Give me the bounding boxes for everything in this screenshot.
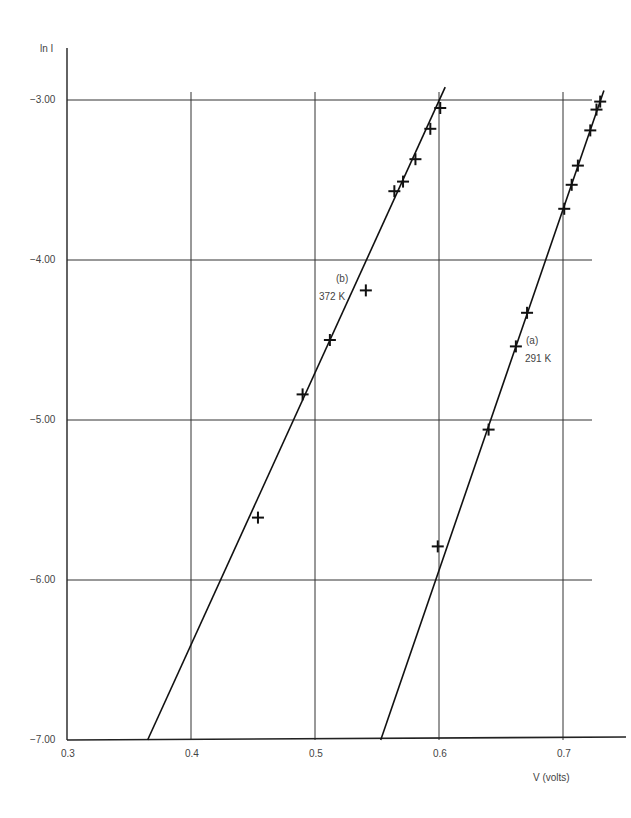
x-tick-label: 0.7	[557, 748, 571, 759]
plus-marker-icon	[510, 340, 522, 352]
x-axis-label-text: V (volts)	[533, 772, 570, 783]
plus-marker-icon	[324, 334, 336, 346]
y-tick-label: −3.00	[30, 94, 55, 105]
plus-marker-icon	[434, 102, 446, 114]
series-a-label: (a)	[526, 335, 538, 346]
plus-marker-icon	[252, 512, 264, 524]
y-tick-label: −5.00	[30, 414, 55, 425]
plus-marker-icon	[483, 424, 495, 436]
plus-marker-icon	[388, 185, 400, 197]
plus-marker-icon	[424, 123, 436, 135]
series-b-label: (b)	[336, 273, 348, 284]
y-tick-label: −4.00	[30, 254, 55, 265]
grid-lines	[67, 92, 592, 740]
x-axis-line	[67, 737, 626, 740]
x-tick-label: 0.6	[433, 748, 447, 759]
y-tick-label: −6.00	[30, 574, 55, 585]
x-tick-label: 0.5	[309, 748, 323, 759]
data-markers	[252, 96, 606, 553]
axes	[67, 48, 626, 740]
series-b-temperature: 372 K	[319, 291, 345, 302]
x-axis-label: V (volts)	[533, 772, 570, 783]
plus-marker-icon	[572, 160, 584, 172]
series-a-temperature: 291 K	[525, 353, 551, 364]
plus-marker-icon	[584, 124, 596, 136]
plus-marker-icon	[558, 203, 570, 215]
fit-lines	[148, 87, 604, 740]
plus-marker-icon	[432, 540, 444, 552]
y-axis-label-text: ln I	[40, 43, 53, 54]
x-tick-label: 0.3	[61, 748, 75, 759]
fit-line-series-b	[148, 87, 446, 740]
plus-marker-icon	[521, 307, 533, 319]
plus-marker-icon	[566, 179, 578, 191]
plus-marker-icon	[397, 176, 409, 188]
fit-line-series-a	[381, 90, 604, 740]
x-tick-label: 0.4	[185, 748, 199, 759]
chart-canvas	[0, 0, 631, 818]
y-tick-label: −7.00	[30, 734, 55, 745]
plus-marker-icon	[360, 284, 372, 296]
y-axis-label: ln I	[40, 43, 53, 54]
